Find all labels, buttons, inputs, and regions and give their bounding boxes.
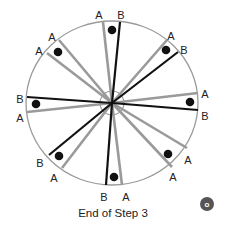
spoke-label-top-2: B [117, 9, 124, 21]
spoke-bottom-gray-2 [112, 103, 122, 185]
spoke-top-black-2 [112, 22, 120, 103]
step-diagram: ABABABAABABABAAA End of Step 3 o [0, 0, 227, 225]
spoke-label-top-left-1: A [35, 45, 43, 57]
marker-dot-bottom [110, 173, 119, 182]
spoke-top-left-gray-2 [59, 40, 112, 103]
spoke-label-bottom-1: B [100, 191, 107, 203]
spoke-label-bottom-right-2: A [169, 171, 177, 183]
spoke-right-black-2 [112, 103, 198, 110]
spoke-label-left-2: A [16, 112, 24, 124]
spoke-label-top-1: A [95, 9, 103, 21]
marker-dot-bottom-left [55, 152, 64, 161]
spoke-label-bottom-left-1: B [36, 157, 43, 169]
spoke-label-left-1: B [16, 93, 23, 105]
marker-dot-top-left [54, 48, 63, 57]
spoke-top-gray-1 [103, 22, 112, 103]
spoke-right-gray-1 [112, 93, 198, 103]
spoke-label-right-2: B [201, 110, 208, 122]
marker-dot-top-right [162, 46, 171, 55]
step-badge-button[interactable]: o [200, 197, 214, 211]
caption: End of Step 3 [78, 207, 148, 219]
spoke-label-bottom-left-2: A [50, 172, 58, 184]
spoke-label-bottom-2: A [122, 191, 130, 203]
spoke-top-left-gray-1 [47, 53, 112, 103]
marker-dot-left [32, 100, 41, 109]
spoke-bottom-left-gray-2 [62, 103, 112, 168]
spoke-label-right-1: A [201, 88, 209, 100]
marker-dot-bottom-right [164, 150, 173, 159]
spoke-top-right-gray-1 [112, 40, 167, 103]
badge-label: o [205, 200, 210, 209]
spoke-label-top-right-2: B [180, 44, 187, 56]
spoke-label-top-left-2: A [48, 31, 56, 43]
spoke-bottom-left-black-1 [49, 103, 112, 155]
marker-dot-right [186, 98, 195, 107]
marker-dot-top [108, 26, 117, 35]
spoke-label-bottom-right-1: A [184, 154, 192, 166]
spoke-bottom-black-1 [106, 103, 112, 185]
spoke-label-top-right-1: A [167, 30, 175, 42]
